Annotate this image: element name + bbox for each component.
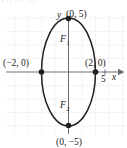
label-left-covertex: (−2, 0) [3,58,29,69]
point-right-covertex [93,69,99,75]
x-tick-label-5: 5 [101,74,106,84]
x-axis-arrow [118,69,125,75]
ellipse-graph-figure: y (0, 5) (0, −5) (−2, 0) (2, 0) F 1 F 2 … [0,0,127,148]
label-bottom-vertex: (0, −5) [56,137,82,148]
y-axis-label: y [56,10,62,20]
point-left-covertex [39,69,45,75]
focus-1-subscript: 1 [67,40,70,46]
x-axis-label: x [111,72,117,82]
grid-lines [6,16,127,134]
focus-1-label: F [59,34,66,44]
label-right-covertex: (2, 0) [85,58,106,69]
point-bottom-vertex [66,123,72,129]
graph-svg: y (0, 5) (0, −5) (−2, 0) (2, 0) F 1 F 2 … [0,0,127,148]
label-top-vertex: (0, 5) [66,9,87,20]
focus-2-label: F [59,100,66,110]
focus-2-subscript: 2 [67,106,70,112]
